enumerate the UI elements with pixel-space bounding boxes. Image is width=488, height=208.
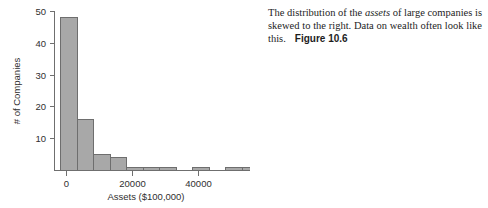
- y-axis-ticks: 1020304050: [35, 6, 54, 144]
- histogram-bar: [110, 158, 127, 171]
- y-tick-label: 30: [35, 70, 46, 81]
- y-axis-title: # of Companies: [11, 57, 22, 124]
- figure-number-label: Figure 10.6: [295, 33, 348, 44]
- x-axis-ticks: 02000040000: [64, 171, 212, 189]
- y-tick-label: 40: [35, 38, 46, 49]
- histogram-chart: 1020304050 02000040000 # of Companies As…: [0, 0, 250, 208]
- x-tick-label: 0: [64, 178, 69, 189]
- y-tick-label: 50: [35, 6, 46, 17]
- histogram-bar: [242, 167, 250, 170]
- histogram-bar: [94, 155, 111, 171]
- x-axis-title: Assets ($100,000): [107, 191, 184, 202]
- figure-caption-block: The distribution of the assets of large …: [268, 6, 482, 45]
- caption-prefix: The distribution of the: [268, 7, 365, 18]
- x-tick-label: 20000: [119, 178, 145, 189]
- histogram-bar: [77, 120, 94, 171]
- histogram-figure: 1020304050 02000040000 # of Companies As…: [0, 0, 250, 208]
- y-tick-label: 10: [35, 133, 46, 144]
- y-tick-label: 20: [35, 101, 46, 112]
- histogram-bar: [61, 18, 78, 171]
- histogram-bars: [61, 18, 250, 171]
- x-tick-label: 40000: [185, 178, 211, 189]
- caption-italic-term: assets: [365, 7, 390, 18]
- figure-caption-text: The distribution of the assets of large …: [268, 6, 482, 45]
